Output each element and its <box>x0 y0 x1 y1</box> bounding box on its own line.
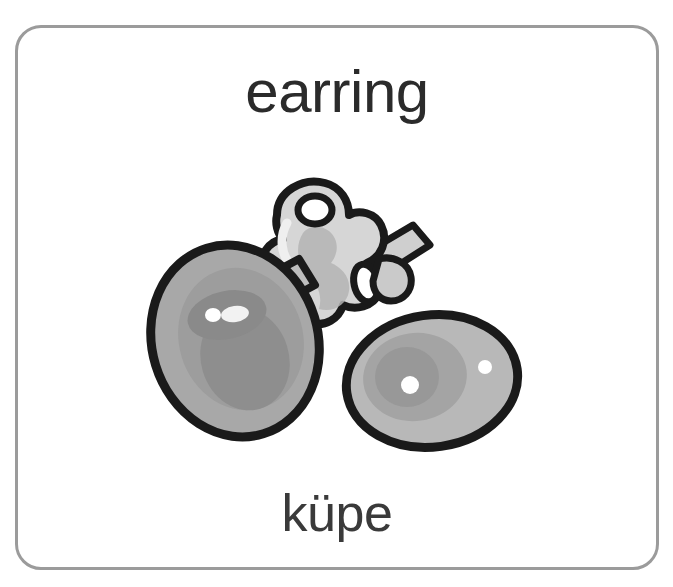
right-pearl-earring <box>338 304 527 453</box>
clasp-top-loop-hole <box>298 196 332 224</box>
vocabulary-flashcard: earring <box>15 25 659 570</box>
right-pearl-highlight-dot-b <box>478 360 492 374</box>
left-pearl-highlight-dot-a <box>205 308 221 322</box>
right-pearl-highlight-dot-a <box>401 376 419 394</box>
turkish-word-label: küpe <box>18 487 656 539</box>
earring-illustration-svg <box>127 163 547 453</box>
earring-illustration <box>127 163 547 453</box>
english-word-label: earring <box>18 62 656 122</box>
flashcard-content: earring <box>18 28 656 567</box>
clasp-right-nub <box>373 258 411 301</box>
